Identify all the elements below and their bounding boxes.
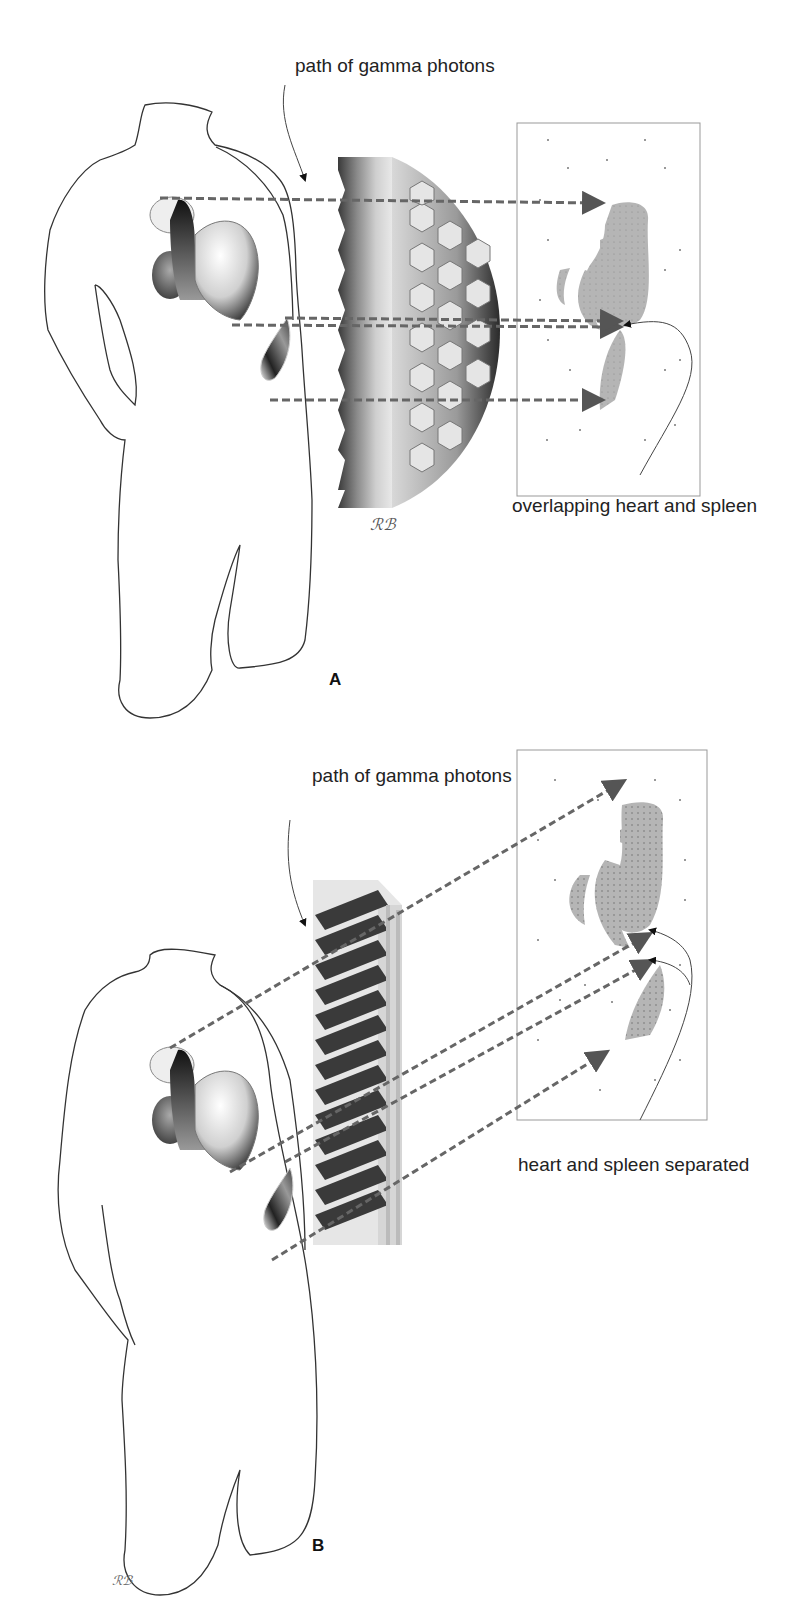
photon-path-label-b: path of gamma photons [312, 765, 512, 787]
slant-hole-collimator [313, 880, 402, 1245]
spleen-organ-b [264, 1168, 293, 1230]
image-frame-a [517, 123, 700, 496]
hexagonal-collimator [338, 157, 500, 508]
heart-organ-b [150, 1047, 258, 1170]
image-frame-b [517, 750, 707, 1120]
overlap-label: overlapping heart and spleen [512, 495, 757, 517]
panel-letter-b: B [312, 1536, 324, 1556]
spleen-organ-a [261, 318, 290, 380]
signature-b: ℛℬ [112, 1573, 133, 1588]
panel-a-illustration: ℛℬ [0, 0, 786, 740]
photon-path-label-a: path of gamma photons [295, 55, 495, 77]
heart-organ-a [150, 197, 258, 320]
body-outline-b [58, 949, 317, 1595]
separated-label: heart and spleen separated [518, 1154, 749, 1176]
panel-letter-a: A [329, 670, 341, 690]
panel-a: ℛℬ path of gamma photons overlapping hea… [0, 0, 786, 740]
body-outline-a [45, 103, 312, 718]
photon-path-pointer-b [288, 820, 305, 925]
signature-a: ℛℬ [370, 516, 397, 533]
panel-b: ℛℬ path of gamma photons heart and splee… [0, 740, 786, 1606]
photon-path-pointer-a [283, 85, 305, 180]
